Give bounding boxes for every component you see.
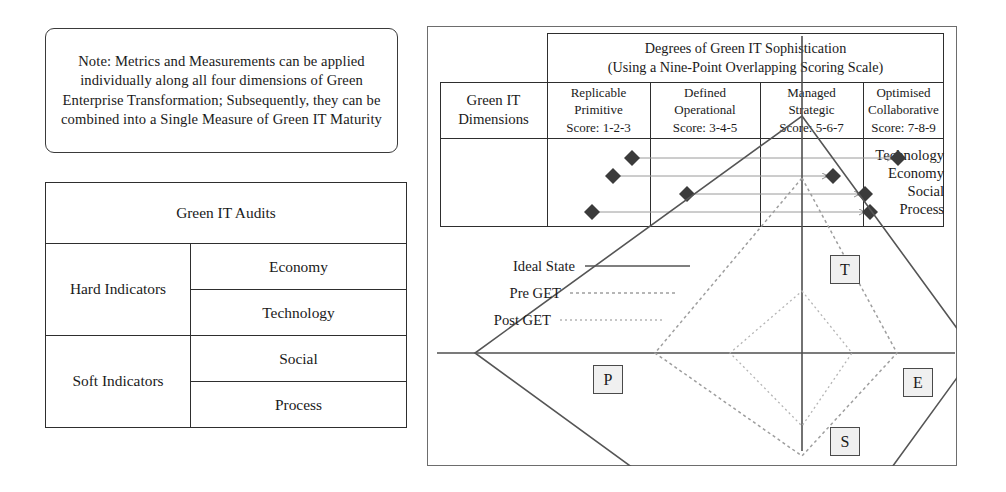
audit-item-social: Social <box>191 336 406 382</box>
audit-item-technology: Technology <box>191 290 406 335</box>
audit-group-hard: Hard Indicators Economy Technology <box>46 244 406 336</box>
audit-group-label-hard: Hard Indicators <box>46 244 191 335</box>
radar-axis-box-economy: E <box>903 368 933 397</box>
green-it-audits-table: Green IT Audits Hard Indicators Economy … <box>45 182 407 428</box>
radar-axis-box-social: S <box>830 427 860 456</box>
audit-items-hard: Economy Technology <box>191 244 406 335</box>
audit-item-process: Process <box>191 382 406 427</box>
radar-series-pre-get <box>655 178 897 456</box>
radar-series-post-get <box>730 291 852 426</box>
legend-label-pre-get: Pre GET <box>441 285 561 302</box>
audit-item-economy: Economy <box>191 244 406 290</box>
legend-label-post-get: Post GET <box>431 312 551 329</box>
audit-group-soft: Soft Indicators Social Process <box>46 336 406 427</box>
legend-label-ideal-state: Ideal State <box>455 258 575 275</box>
audits-table-title: Green IT Audits <box>46 183 406 244</box>
figure-canvas: Note: Metrics and Measurements can be ap… <box>0 0 1006 492</box>
note-callout-box: Note: Metrics and Measurements can be ap… <box>45 28 398 153</box>
get-radar-chart <box>427 26 957 466</box>
note-text: Note: Metrics and Measurements can be ap… <box>56 52 387 130</box>
radar-axis-box-process: P <box>593 365 623 394</box>
radar-axis-box-technology: T <box>830 255 860 284</box>
audit-group-label-soft: Soft Indicators <box>46 336 191 427</box>
audit-items-soft: Social Process <box>191 336 406 427</box>
